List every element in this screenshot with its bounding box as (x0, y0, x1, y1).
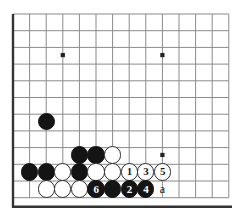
stone-white-move-5[interactable]: 5 (154, 163, 171, 180)
stone-white[interactable] (71, 180, 88, 197)
stone-black[interactable] (71, 163, 88, 180)
stone-white[interactable] (87, 163, 104, 180)
move-number: 2 (127, 183, 132, 194)
stone-black[interactable] (87, 146, 104, 163)
stone-white[interactable] (104, 146, 121, 163)
go-diagram: 135624a (0, 0, 236, 221)
stone-black[interactable] (38, 163, 55, 180)
stone-white[interactable] (54, 180, 71, 197)
star-point (160, 153, 164, 157)
star-point (61, 53, 65, 57)
stone-black-move-4[interactable]: 4 (137, 180, 154, 197)
stone-black[interactable] (71, 146, 88, 163)
move-number: 5 (160, 166, 165, 177)
stone-black-move-2[interactable]: 2 (121, 180, 138, 197)
stone-white[interactable] (104, 163, 121, 180)
move-number: 3 (143, 166, 148, 177)
stone-white[interactable] (54, 163, 71, 180)
stone-white[interactable] (38, 180, 55, 197)
point-marker-a[interactable]: a (154, 180, 171, 197)
move-number: 4 (143, 183, 148, 194)
stone-black[interactable] (21, 163, 38, 180)
stone-white-move-3[interactable]: 3 (137, 163, 154, 180)
star-point (160, 53, 164, 57)
stone-black[interactable] (104, 180, 121, 197)
move-number: 1 (127, 166, 132, 177)
stone-white-move-1[interactable]: 1 (121, 163, 138, 180)
stone-black-move-6[interactable]: 6 (87, 180, 104, 197)
move-number: 6 (93, 183, 98, 194)
